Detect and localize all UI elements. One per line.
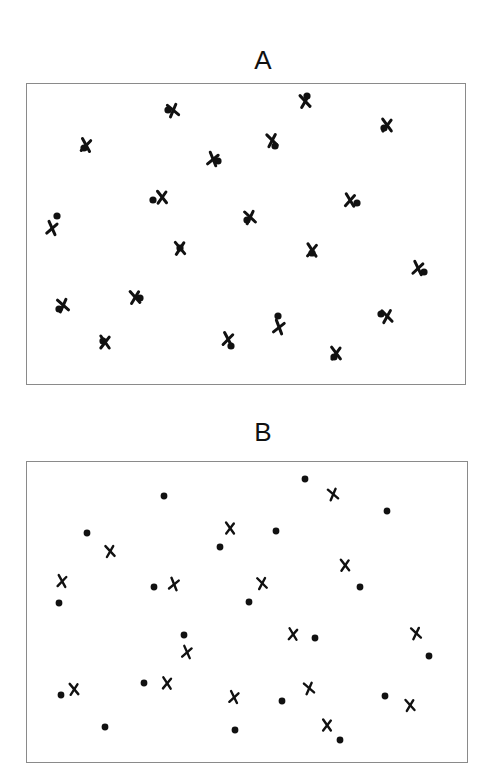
cross-marker xyxy=(411,627,421,639)
cross-marker xyxy=(229,691,238,703)
cross-marker xyxy=(323,720,331,731)
cross-marker xyxy=(58,575,67,587)
dot-marker xyxy=(426,653,433,660)
cross-marker xyxy=(105,545,114,557)
cross-marker xyxy=(257,577,266,589)
panel-b-markers xyxy=(56,476,433,744)
dot-marker xyxy=(181,632,188,639)
dot-marker xyxy=(217,544,224,551)
cross-marker xyxy=(273,320,284,334)
dot-marker xyxy=(141,680,148,687)
cross-marker xyxy=(47,221,58,234)
dot-marker xyxy=(273,528,280,535)
cross-marker xyxy=(226,522,234,533)
cross-marker xyxy=(341,559,349,570)
dot-marker xyxy=(84,530,91,537)
cross-marker xyxy=(169,578,179,590)
cross-marker xyxy=(345,194,354,207)
dot-marker xyxy=(279,698,286,705)
cross-marker xyxy=(413,261,423,274)
dot-marker xyxy=(382,693,389,700)
cross-marker xyxy=(157,191,166,203)
cross-marker xyxy=(223,333,233,346)
dot-marker xyxy=(246,599,253,606)
dot-marker xyxy=(149,196,156,203)
cross-marker xyxy=(406,699,415,711)
dot-marker xyxy=(53,212,60,219)
panel-a-markers xyxy=(47,92,428,360)
dot-marker xyxy=(337,737,344,744)
dot-marker xyxy=(384,508,391,515)
dot-marker xyxy=(274,312,281,319)
dot-marker xyxy=(232,727,239,734)
dot-marker xyxy=(161,493,168,500)
cross-marker xyxy=(182,646,192,658)
dot-marker xyxy=(102,724,109,731)
dot-marker xyxy=(58,692,65,699)
dot-marker xyxy=(302,476,309,483)
cross-marker xyxy=(289,628,297,640)
dot-marker xyxy=(151,584,158,591)
scatter-markers xyxy=(0,0,487,773)
dot-marker xyxy=(357,584,364,591)
dot-marker xyxy=(312,635,319,642)
dot-marker xyxy=(56,600,63,607)
cross-marker xyxy=(163,677,171,688)
cross-marker xyxy=(70,683,79,695)
cross-marker xyxy=(328,488,338,501)
cross-marker xyxy=(304,682,314,695)
